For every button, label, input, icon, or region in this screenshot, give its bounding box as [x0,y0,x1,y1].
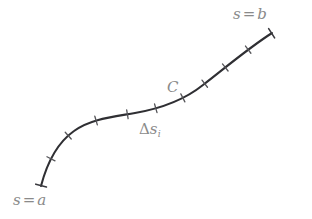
delta-s-subscript: i [158,128,161,139]
label-curve-name: C [167,80,178,95]
label-delta-s-i: Δsi [139,122,161,137]
curve-diagram-canvas [0,0,312,219]
label-s-equals-b-variable: s [233,5,241,23]
label-s-equals-a-value: a [37,191,46,209]
label-s-equals-b: s=b [233,7,267,22]
label-s-equals-b-value: b [257,5,267,23]
label-s-equals-b-operator: = [241,5,258,23]
delta-s-variable: s [150,120,158,138]
delta-glyph: Δ [139,120,150,138]
label-s-equals-a-variable: s [13,191,21,209]
label-s-equals-a-operator: = [21,191,38,209]
label-s-equals-a: s=a [13,193,46,208]
